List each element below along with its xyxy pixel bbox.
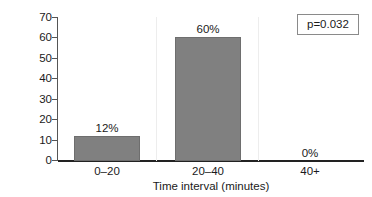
y-tick-label-0: 0 (6, 155, 52, 166)
y-tick-label-50: 50 (6, 53, 52, 64)
x-category-label-20-40: 20–40 (175, 165, 241, 178)
y-tick-label-20: 20 (6, 114, 52, 125)
bar-value-0-20: 12% (74, 122, 140, 134)
x-category-label-0-20: 0–20 (74, 165, 140, 178)
x-category-label-40-plus: 40+ (277, 165, 343, 178)
p-value-annotation: p=0.032 (297, 14, 359, 35)
bar-value-40-plus: 0% (277, 147, 343, 159)
gridline-2 (258, 17, 259, 161)
y-tick-label-30: 30 (6, 94, 52, 105)
y-tick-label-70: 70 (6, 12, 52, 23)
y-axis-ticks: 70 60 50 40 30 20 10 0 (0, 0, 52, 197)
y-tick-label-60: 60 (6, 32, 52, 43)
bar-20-40 (175, 37, 241, 161)
y-tick-label-10: 10 (6, 135, 52, 146)
x-axis-title: Time interval (minutes) (58, 180, 364, 192)
gridline-1 (156, 17, 157, 161)
y-axis-line (57, 17, 58, 161)
y-tick-label-40: 40 (6, 73, 52, 84)
bar-chart-figure: Mean % success fertilization 70 60 50 40… (0, 0, 372, 197)
bar-0-20 (74, 136, 140, 161)
bar-value-20-40: 60% (175, 23, 241, 35)
